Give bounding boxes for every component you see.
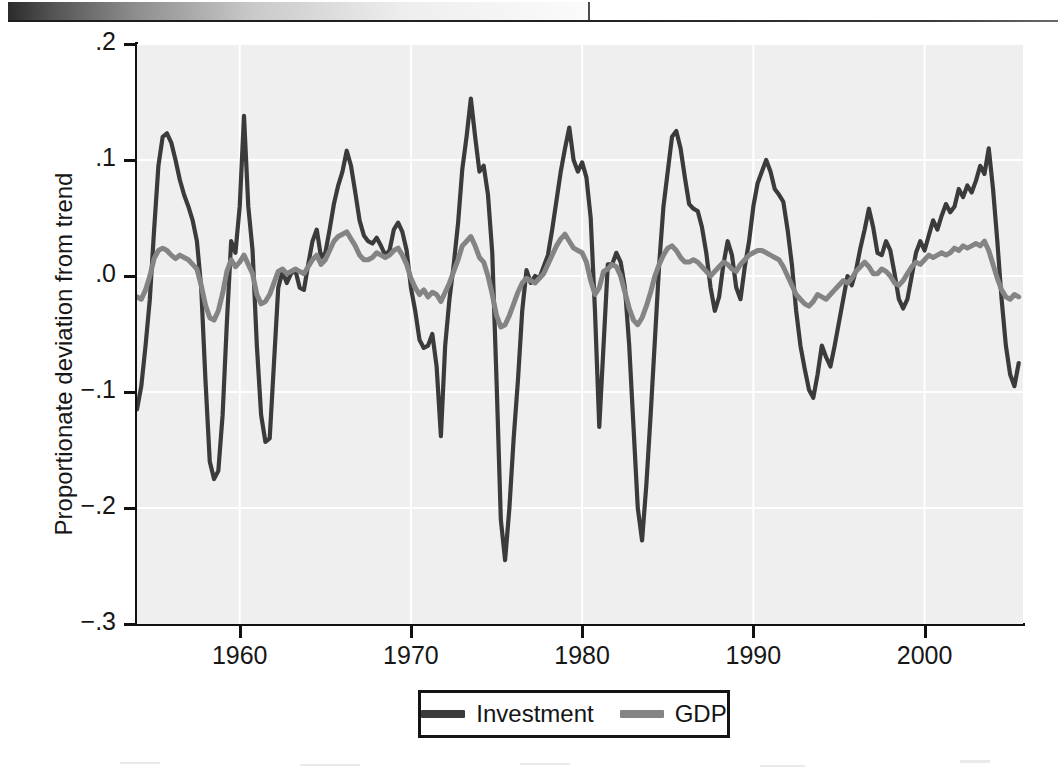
x-tick-label: 1980 xyxy=(537,641,627,670)
x-tick-label: 2000 xyxy=(880,641,970,670)
y-tick-label: −.1 xyxy=(52,375,116,404)
scan-gutter-edge xyxy=(588,2,590,20)
x-tick-label: 1960 xyxy=(195,641,285,670)
y-tick-mark xyxy=(124,275,137,278)
x-tick-mark xyxy=(581,625,584,638)
y-axis-title: Proportionate deviation from trend xyxy=(50,104,78,604)
figure-root: Proportionate deviation from trend .2.1.… xyxy=(0,0,1064,775)
y-tick-mark xyxy=(124,159,137,162)
scan-artifact xyxy=(300,764,360,766)
legend-swatch-gdp xyxy=(620,710,664,718)
scan-artifact xyxy=(760,765,805,767)
x-tick-mark xyxy=(924,625,927,638)
scan-artifact xyxy=(520,763,570,765)
scan-artifact xyxy=(120,762,160,764)
chart-legend: Investment GDP xyxy=(418,690,730,738)
x-tick-label: 1970 xyxy=(366,641,456,670)
y-tick-mark xyxy=(124,623,137,626)
x-tick-mark xyxy=(752,625,755,638)
plot-area xyxy=(137,44,1023,624)
series-line-investment xyxy=(137,99,1019,561)
scan-artifact xyxy=(960,760,990,763)
y-axis-title-wrap: Proportionate deviation from trend xyxy=(28,40,68,630)
y-tick-mark xyxy=(124,507,137,510)
y-tick-label: .1 xyxy=(52,143,116,172)
x-tick-mark xyxy=(239,625,242,638)
y-tick-mark xyxy=(124,391,137,394)
scan-gutter-shadow xyxy=(8,2,590,20)
y-tick-mark xyxy=(124,43,137,46)
page-top-rule xyxy=(8,20,1058,22)
legend-item-investment: Investment xyxy=(421,700,593,728)
y-tick-label: −.3 xyxy=(52,607,116,636)
legend-label-investment: Investment xyxy=(476,700,593,728)
chart-canvas xyxy=(137,44,1023,624)
legend-label-gdp: GDP xyxy=(675,700,727,728)
legend-swatch-investment xyxy=(421,710,465,718)
legend-item-gdp: GDP xyxy=(620,700,727,728)
x-tick-label: 1990 xyxy=(708,641,798,670)
y-tick-label: −.2 xyxy=(52,491,116,520)
y-tick-label: .0 xyxy=(52,259,116,288)
y-tick-label: .2 xyxy=(52,27,116,56)
x-tick-mark xyxy=(410,625,413,638)
